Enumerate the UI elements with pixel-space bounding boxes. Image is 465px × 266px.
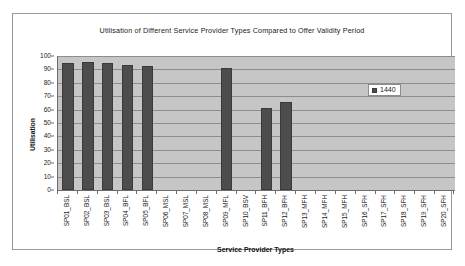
x-tick-mark	[335, 191, 336, 194]
y-tick-label: 100	[40, 53, 51, 60]
x-tick-label-SP16_SFH: SP16_SFH	[361, 195, 367, 227]
y-tick-mark	[51, 136, 54, 137]
x-tick-mark	[355, 191, 356, 194]
x-tick-mark	[255, 191, 256, 194]
y-tick-label: 10	[44, 173, 51, 180]
y-tick-label: 60	[44, 106, 51, 113]
x-axis-title: Service Provider Types	[57, 246, 454, 253]
x-tick-mark	[156, 191, 157, 194]
y-tick-mark	[51, 190, 54, 191]
x-tick-mark	[77, 191, 78, 194]
x-tick-label-SP08_MSL: SP08_MSL	[203, 195, 209, 227]
x-tick-label-SP10_BSV: SP10_BSV	[242, 195, 248, 227]
y-tick-mark	[51, 123, 54, 124]
y-tick-label: 20	[44, 160, 51, 167]
chart-frame: Utilisation of Different Service Provide…	[12, 13, 452, 250]
x-label-cell: SP16_SFH	[355, 195, 375, 243]
bar-slot	[276, 56, 296, 190]
y-tick-label: 80	[44, 80, 51, 87]
x-tick-label-SP03_BSL: SP03_BSL	[103, 195, 109, 226]
x-tick-label-SP11_BFH: SP11_BFH	[262, 195, 268, 227]
bar-slot	[336, 56, 356, 190]
bar-SP11_BFH[interactable]	[261, 108, 273, 190]
bar-slot	[256, 56, 276, 190]
x-tick-label-SP20_SFH: SP20_SFH	[441, 195, 447, 227]
x-label-cell: SP18_SFH	[394, 195, 414, 243]
bar-slot	[415, 56, 435, 190]
x-tick-mark	[434, 191, 435, 194]
x-tick-label-SP09_MFL: SP09_MFL	[222, 195, 228, 227]
bar-slot	[98, 56, 118, 190]
x-label-cell: SP15_MFH	[335, 195, 355, 243]
bar-slot	[217, 56, 237, 190]
y-tick-mark	[51, 109, 54, 110]
x-label-cell: SP19_SFH	[414, 195, 434, 243]
y-tick-mark	[51, 176, 54, 177]
x-tick-mark	[414, 191, 415, 194]
x-tick-mark	[453, 191, 454, 194]
x-label-cell: SP03_BSL	[97, 195, 117, 243]
x-tick-label-SP17_SFH: SP17_SFH	[381, 195, 387, 227]
x-label-cell: SP10_BSV	[236, 195, 256, 243]
x-tick-label-SP02_BSL: SP02_BSL	[84, 195, 90, 226]
y-tick-label: 70	[44, 93, 51, 100]
x-tick-label-SP15_MFH: SP15_MFH	[342, 195, 348, 228]
y-tick-mark	[51, 82, 54, 83]
x-tick-mark	[57, 191, 58, 194]
x-tick-mark	[176, 191, 177, 194]
x-label-cell: SP08_MSL	[196, 195, 216, 243]
bar-SP12_BFH[interactable]	[280, 102, 292, 190]
y-tick-mark	[51, 163, 54, 164]
x-label-cell: SP20_SFH	[434, 195, 454, 243]
x-tick-mark	[275, 191, 276, 194]
bar-slot	[157, 56, 177, 190]
x-label-cell: SP04_BFL	[117, 195, 137, 243]
bar-slot	[316, 56, 336, 190]
x-label-cell: SP02_BSL	[77, 195, 97, 243]
y-tick-mark	[51, 96, 54, 97]
bar-SP09_MFL[interactable]	[221, 68, 233, 190]
chart-title: Utilisation of Different Service Provide…	[13, 26, 451, 35]
x-label-cell: SP07_MSL	[176, 195, 196, 243]
x-tick-mark	[196, 191, 197, 194]
x-tick-label-SP05_BFL: SP05_BFL	[143, 195, 149, 226]
bar-slot	[435, 56, 455, 190]
bar-SP02_BSL[interactable]	[82, 62, 94, 190]
y-axis-ticks: 0102030405060708090100	[25, 56, 54, 190]
x-label-cell: SP12_BFH	[275, 195, 295, 243]
bar-SP03_BSL[interactable]	[102, 63, 114, 190]
x-tick-label-SP18_SFH: SP18_SFH	[401, 195, 407, 227]
x-tick-label-SP01_BSL: SP01_BSL	[64, 195, 70, 226]
x-tick-mark	[236, 191, 237, 194]
y-tick-label: 50	[44, 120, 51, 127]
bar-slot	[197, 56, 217, 190]
x-tick-mark	[117, 191, 118, 194]
x-label-cell: SP05_BFL	[136, 195, 156, 243]
bar-slot	[237, 56, 257, 190]
legend-swatch-icon	[372, 88, 377, 93]
x-tick-mark	[216, 191, 217, 194]
x-label-cell: SP17_SFH	[375, 195, 395, 243]
bar-SP01_BSL[interactable]	[62, 63, 74, 190]
x-label-cell: SP09_MFL	[216, 195, 236, 243]
bar-slot	[395, 56, 415, 190]
y-tick-mark	[51, 69, 54, 70]
y-tick-label: 90	[44, 66, 51, 73]
bar-slot	[118, 56, 138, 190]
bar-SP04_BFL[interactable]	[122, 65, 134, 190]
x-tick-mark	[375, 191, 376, 194]
chart-legend: 1440	[368, 84, 401, 96]
x-tick-label-SP19_SFH: SP19_SFH	[421, 195, 427, 227]
x-label-cell: SP01_BSL	[57, 195, 77, 243]
x-tick-mark	[315, 191, 316, 194]
x-tick-mark	[136, 191, 137, 194]
bar-slot	[376, 56, 396, 190]
x-tick-label-SP14_MFH: SP14_MFH	[322, 195, 328, 228]
legend-label: 1440	[380, 86, 396, 94]
bar-SP05_BFL[interactable]	[142, 66, 154, 190]
bar-slot	[356, 56, 376, 190]
x-tick-label-SP12_BFH: SP12_BFH	[282, 195, 288, 227]
x-label-cell: SP13_MFH	[295, 195, 315, 243]
x-label-cell: SP06_MSL	[156, 195, 176, 243]
x-tick-label-SP04_BFL: SP04_BFL	[123, 195, 129, 226]
